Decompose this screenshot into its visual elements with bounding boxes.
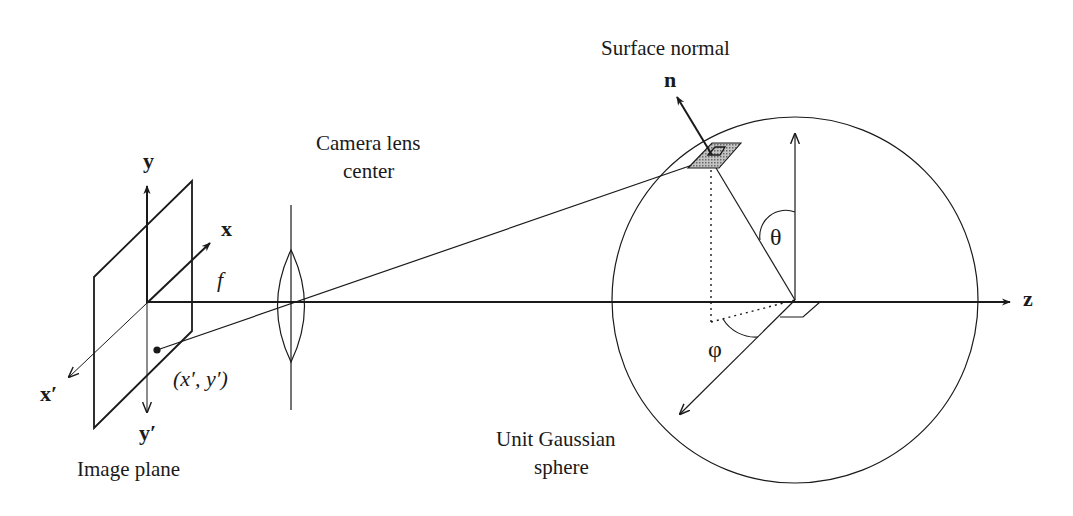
label-focal-length: f [217, 267, 226, 292]
label-unit-sphere-line2: sphere [534, 455, 589, 479]
dotted-projection-horizontal [711, 300, 795, 322]
projection-ray [157, 161, 704, 350]
radius-to-patch [716, 168, 795, 300]
label-surface-normal: Surface normal [601, 36, 730, 60]
label-camera-lens-line1: Camera lens [316, 131, 420, 155]
label-image-plane: Image plane [77, 457, 180, 481]
label-axis-x-prime: x′ [40, 381, 57, 406]
surface-normal-vector [677, 97, 712, 155]
label-axis-y-prime: y′ [139, 420, 156, 445]
label-axis-x: x [221, 216, 232, 241]
diagram-canvas: Surface normal n Camera lens center y x … [0, 0, 1073, 516]
label-axis-z: z [1023, 286, 1033, 311]
label-theta: θ [770, 224, 782, 250]
label-axis-y: y [143, 148, 154, 173]
label-camera-lens-line2: center [343, 159, 394, 183]
diagram-svg: Surface normal n Camera lens center y x … [0, 0, 1073, 516]
x-prime-axis [69, 303, 147, 377]
phi-arc [723, 319, 758, 337]
label-image-point: (x′, y′) [173, 366, 228, 391]
x-axis [147, 243, 210, 303]
sphere-depth-axis [680, 300, 795, 414]
label-unit-sphere-line1: Unit Gaussian [496, 427, 616, 451]
label-normal-vector: n [664, 67, 676, 92]
label-phi: φ [708, 336, 722, 362]
